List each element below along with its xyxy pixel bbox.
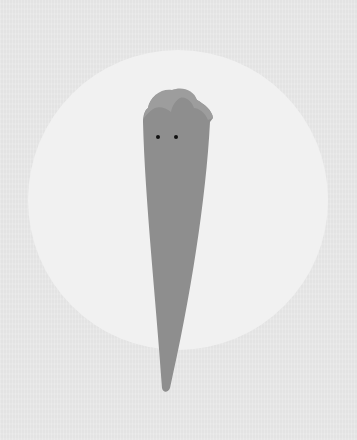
left-eye-icon (156, 135, 160, 139)
creature-illustration (0, 0, 357, 440)
right-eye-icon (174, 135, 178, 139)
illustration-scene (0, 0, 357, 440)
